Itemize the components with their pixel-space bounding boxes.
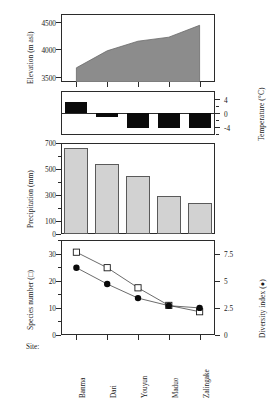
diversity-tick-label: 5 [224,277,250,286]
site-label-dari: Dari [110,385,118,398]
temperature-bar [189,113,211,128]
site-tick-mark [200,335,201,340]
temperature-tick-neg4: -4 [224,124,248,133]
elevation-x-tick [107,82,108,87]
elevation-x-tick [138,82,139,87]
species-tick-mark [56,335,61,336]
temperature-axis-label: Temperature (°C) [257,88,266,142]
diversity-tick-mark [215,335,220,336]
temperature-minor-tick [216,106,219,107]
site-label-youyun: Youyun [141,376,149,398]
precipitation-tick-label: 100 [28,217,56,226]
temperature-tick-mark [215,113,220,114]
diversity-tick-label: 7.5 [224,250,250,259]
diversity-axis-label: Diversity index (●) [258,279,267,338]
diversity-tick-label: 2.5 [224,304,250,313]
elevation-tick-4500: 4500 [28,19,56,28]
species-tick-label: 0 [28,331,56,340]
species-marker [135,285,141,291]
diversity-marker [196,305,202,311]
elevation-x-tick [76,82,77,87]
elevation-tick-3500: 3500 [28,74,56,83]
diversity-marker [135,295,141,301]
precipitation-bar [95,164,119,234]
diversity-marker [104,281,110,287]
precipitation-tick-label: 700 [28,139,56,148]
precipitation-bar [157,196,181,234]
elevation-panel [61,14,215,82]
site-tick-mark [107,335,108,340]
site-tick-mark [169,335,170,340]
temperature-tick-mark [215,99,220,100]
precipitation-tick-mark [56,234,61,235]
temperature-bar [65,102,87,113]
elevation-area-series [61,14,215,82]
diversity-marker [73,265,79,271]
precipitation-bar [64,148,88,234]
species-tick-label: 10 [28,304,56,313]
elevation-x-tick [169,82,170,87]
temperature-tick-0: 0 [224,110,248,119]
diversity-tick-mark [215,308,220,309]
diversity-tick-mark [215,281,220,282]
species-diversity-panel [61,240,215,335]
precipitation-tick-label: 300 [28,191,56,200]
precipitation-tick-label: 0 [28,230,56,239]
species-tick-label: 20 [28,277,56,286]
diversity-tick-mark [215,254,220,255]
site-tick-mark [138,335,139,340]
elevation-tick-4000: 4000 [28,46,56,55]
diversity-marker [166,303,172,309]
site-axis-caption: Site: [26,343,39,351]
precipitation-bar [126,176,150,235]
temperature-bar [96,113,118,117]
temperature-minor-tick [216,120,219,121]
temperature-bar [158,113,180,128]
site-label-zalingake: Zalingake [203,369,211,398]
elevation-x-tick [200,82,201,87]
temperature-tick-mark [215,127,220,128]
temperature-panel [61,91,215,135]
temperature-tick-4: 4 [224,96,248,105]
precipitation-panel [61,143,215,234]
precipitation-bar [188,203,212,234]
species-marker [73,249,79,255]
site-label-banma: Banma [79,378,87,398]
species-tick-label: 30 [28,250,56,259]
temperature-bar [127,113,149,128]
temperature-minor-tick [216,134,219,135]
site-tick-mark [76,335,77,340]
species-diversity-series [61,240,215,335]
diversity-tick-label: 0 [224,331,250,340]
species-marker [104,265,110,271]
site-label-maduo: Maduo [172,378,180,398]
precipitation-tick-label: 500 [28,165,56,174]
figure: Elevation (m asl) 4500 4000 3500 Tempera… [0,0,280,402]
